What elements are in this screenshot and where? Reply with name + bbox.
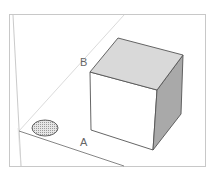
circle-face[interactable]	[32, 120, 58, 136]
axis-label-b: B	[80, 56, 87, 68]
scene-canvas: B A	[0, 0, 211, 174]
axis-label-a: A	[80, 136, 88, 148]
